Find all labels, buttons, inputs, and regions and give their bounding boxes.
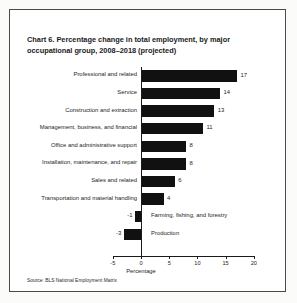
chart-title: Chart 6. Percentage change in total empl… bbox=[27, 35, 262, 56]
x-axis-tick bbox=[226, 256, 227, 259]
bar-value-label: 8 bbox=[190, 142, 193, 149]
page-frame-border: Chart 6. Percentage change in total empl… bbox=[9, 9, 286, 292]
x-axis-tick bbox=[254, 256, 255, 259]
bar-row: Management, business, and financial11 bbox=[10, 121, 287, 139]
bar-row: Installation, maintenance, and repair8 bbox=[10, 156, 287, 174]
x-axis-tick-label: -5 bbox=[110, 260, 115, 267]
bar-value-label: 17 bbox=[240, 72, 247, 79]
bar bbox=[141, 158, 186, 169]
bar-value-label: 11 bbox=[207, 124, 213, 131]
x-axis-tick bbox=[169, 256, 170, 259]
category-label: Office and administrative support bbox=[51, 142, 137, 149]
category-label: Installation, maintenance, and repair bbox=[42, 159, 137, 166]
bar-row: Transportation and material handling4 bbox=[10, 191, 287, 209]
bar bbox=[141, 141, 186, 152]
bar-row: Professional and related17 bbox=[10, 68, 287, 86]
x-axis-tick bbox=[141, 256, 142, 259]
bar-value-label: 4 bbox=[167, 195, 170, 202]
bar-row: Production-3 bbox=[10, 226, 287, 244]
category-label: Production bbox=[151, 230, 179, 237]
bar bbox=[141, 70, 237, 81]
category-label: Transportation and material handling bbox=[41, 195, 137, 202]
bar bbox=[141, 123, 203, 134]
bar-row: Service14 bbox=[10, 86, 287, 104]
category-label: Management, business, and financial bbox=[40, 124, 137, 131]
category-label: Professional and related bbox=[73, 71, 137, 78]
x-axis-tick bbox=[113, 256, 114, 259]
bar-value-label: 13 bbox=[218, 107, 225, 114]
bar-value-label: 8 bbox=[190, 160, 193, 167]
bar bbox=[141, 193, 164, 204]
x-axis-tick bbox=[197, 256, 198, 259]
bar-value-label: 6 bbox=[178, 177, 181, 184]
bar bbox=[124, 229, 141, 240]
source-note: Source: BLS National Employment Matrix bbox=[27, 277, 117, 284]
x-axis-tick-label: 10 bbox=[194, 260, 200, 267]
bar-value-label: -1 bbox=[127, 212, 132, 219]
chart-title-line-2: occupational group, 2008–2018 (projected… bbox=[27, 46, 262, 57]
x-axis-line bbox=[113, 256, 254, 257]
chart-title-line-1: Chart 6. Percentage change in total empl… bbox=[27, 35, 262, 46]
category-label: Construction and extraction bbox=[65, 107, 137, 114]
bar-row: Farming, fishing, and forestry-1 bbox=[10, 209, 287, 227]
x-axis-tick-label: 0 bbox=[139, 260, 142, 267]
bar-row: Sales and related6 bbox=[10, 174, 287, 192]
x-axis-tick-label: 20 bbox=[251, 260, 257, 267]
bar bbox=[141, 88, 220, 99]
x-axis-tick-label: 15 bbox=[222, 260, 228, 267]
chart-page: Chart 6. Percentage change in total empl… bbox=[0, 0, 297, 303]
plot-area: Professional and related17Service14Const… bbox=[10, 66, 287, 256]
category-label: Farming, fishing, and forestry bbox=[151, 212, 227, 219]
bar-row: Construction and extraction13 bbox=[10, 103, 287, 121]
x-axis-tick-label: 5 bbox=[168, 260, 171, 267]
bar-row: Office and administrative support8 bbox=[10, 138, 287, 156]
category-label: Service bbox=[117, 89, 137, 96]
x-axis-title: Percentage bbox=[126, 268, 156, 274]
bar bbox=[141, 105, 214, 116]
category-label: Sales and related bbox=[91, 177, 137, 184]
bar-value-label: -3 bbox=[116, 230, 121, 237]
figure-container: Chart 6. Percentage change in total empl… bbox=[10, 10, 285, 291]
bar bbox=[141, 176, 175, 187]
zero-axis-line bbox=[141, 67, 142, 257]
bar-value-label: 14 bbox=[223, 89, 230, 96]
